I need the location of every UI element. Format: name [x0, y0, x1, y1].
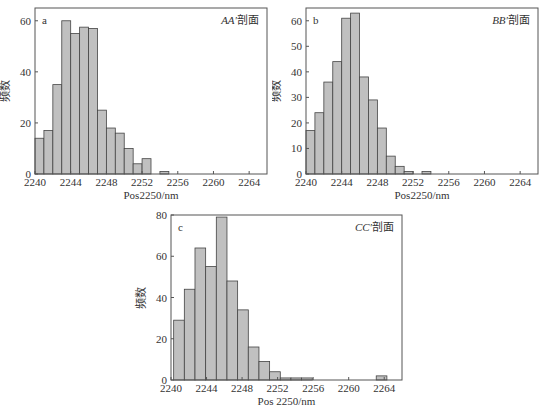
x-tick-label: 2256: [302, 382, 325, 394]
x-tick-label: 2248: [231, 382, 254, 394]
x-axis-label: Pos2250/nm: [394, 189, 449, 200]
histogram-bar: [142, 159, 151, 174]
y-tick-label: 80: [156, 209, 168, 221]
histogram-bar: [62, 21, 71, 174]
histogram-bar: [195, 248, 206, 380]
histogram-bar: [89, 28, 98, 174]
histogram-bar: [206, 267, 217, 380]
histogram-bar: [53, 85, 62, 174]
histogram-bar: [174, 320, 185, 380]
y-tick-label: 50: [291, 40, 303, 52]
y-tick-label: 0: [297, 168, 303, 180]
x-tick-label: 2260: [473, 176, 496, 188]
y-tick-label: 40: [291, 66, 303, 78]
x-axis-label: Pos 2250/nm: [258, 395, 316, 407]
y-tick-label: 0: [26, 168, 32, 180]
section-annotation: BB′剖面: [492, 13, 530, 26]
histogram-bar: [44, 131, 53, 174]
x-tick-label: 2244: [331, 176, 354, 188]
histogram-bar: [216, 217, 227, 380]
y-tick-label: 10: [291, 142, 303, 154]
x-tick-label: 2260: [202, 176, 225, 188]
y-tick-label: 20: [156, 333, 168, 345]
histogram-b-plot: 2240224422482252225622602264010203040506…: [272, 0, 545, 200]
histogram-bar: [333, 62, 342, 174]
histogram-bar: [377, 128, 386, 174]
x-tick-label: 2252: [267, 382, 289, 394]
x-tick-label: 2264: [373, 382, 396, 394]
histogram-c-plot: 2240224422482252225622602264020406080Pos…: [130, 203, 410, 408]
histogram-c: 2240224422482252225622602264020406080Pos…: [130, 203, 410, 408]
histogram-bar: [259, 361, 270, 380]
histogram-bar: [395, 166, 404, 174]
histogram-bar: [376, 376, 387, 380]
histogram-bar: [106, 128, 115, 174]
histogram-bar: [368, 100, 377, 174]
histogram-bar: [342, 18, 351, 174]
histogram-bar: [97, 110, 106, 174]
y-tick-label: 30: [291, 91, 303, 103]
histogram-bar: [360, 77, 369, 174]
x-tick-label: 2248: [95, 176, 118, 188]
histogram-bar: [35, 138, 44, 174]
x-tick-label: 2264: [509, 176, 531, 188]
histogram-bar: [238, 310, 249, 380]
histogram-b: 2240224422482252225622602264010203040506…: [272, 0, 545, 200]
histogram-bar: [270, 372, 281, 380]
x-tick-label: 2256: [167, 176, 190, 188]
histogram-bar: [315, 113, 324, 174]
x-tick-label: 2244: [196, 382, 219, 394]
x-tick-label: 2252: [131, 176, 153, 188]
histogram-bar: [124, 148, 133, 174]
histogram-bar: [351, 13, 360, 174]
section-annotation: CC′剖面: [355, 220, 394, 233]
histogram-bar: [306, 131, 315, 174]
histogram-bar: [184, 289, 195, 380]
histogram-bar: [133, 164, 142, 174]
histogram-a: 22402244224822522256226022640204060Pos22…: [0, 0, 272, 200]
histogram-bar: [115, 133, 124, 174]
y-tick-label: 40: [156, 292, 168, 304]
y-axis-label: 频数: [272, 80, 282, 102]
histogram-bar: [227, 281, 238, 380]
histogram-bar: [248, 347, 259, 380]
panel-label: b: [313, 14, 319, 26]
x-tick-label: 2248: [366, 176, 389, 188]
y-tick-label: 20: [291, 117, 303, 129]
y-tick-label: 60: [291, 15, 303, 27]
x-axis-label: Pos2250/nm: [123, 189, 178, 200]
x-tick-label: 2256: [438, 176, 461, 188]
panel-label: c: [178, 221, 183, 233]
y-tick-label: 0: [162, 374, 168, 386]
histogram-a-plot: 22402244224822522256226022640204060Pos22…: [0, 0, 272, 200]
y-axis-label: 频数: [0, 80, 11, 102]
y-tick-label: 60: [20, 15, 32, 27]
y-tick-label: 60: [156, 250, 168, 262]
histogram-bar: [71, 34, 80, 174]
y-tick-label: 40: [20, 66, 32, 78]
histogram-bar: [324, 82, 333, 174]
x-tick-label: 2252: [402, 176, 424, 188]
y-tick-label: 20: [20, 117, 32, 129]
y-axis-label: 频数: [134, 287, 147, 309]
histogram-bar: [80, 27, 89, 174]
panel-label: a: [42, 14, 47, 26]
x-tick-label: 2264: [238, 176, 261, 188]
x-tick-label: 2260: [338, 382, 361, 394]
x-tick-label: 2244: [60, 176, 83, 188]
histogram-bar: [386, 156, 395, 174]
section-annotation: AA′剖面: [220, 13, 259, 26]
figure-caption: [0, 409, 545, 417]
